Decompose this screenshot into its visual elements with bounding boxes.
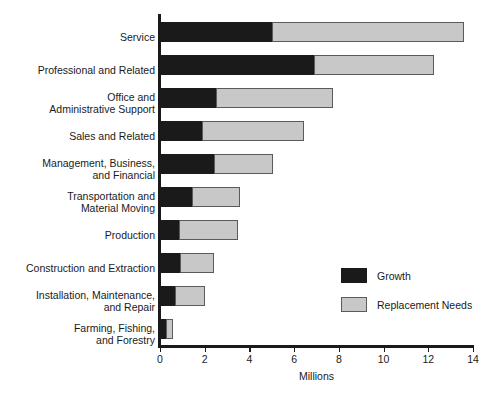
bar-segment-growth: [160, 220, 179, 240]
bar-segment-replacement-needs: [175, 286, 205, 306]
bar-segment-growth: [160, 187, 192, 207]
bar-row: Professional and Related: [0, 55, 497, 88]
bar-segment-growth: [160, 22, 272, 42]
stacked-bar-chart: ServiceProfessional and RelatedOffice an…: [0, 0, 497, 403]
category-label: Professional and Related: [0, 65, 155, 77]
category-label: Service: [0, 32, 155, 44]
category-label: Sales and Related: [0, 131, 155, 143]
category-label: Farming, Fishing, and Forestry: [0, 323, 155, 346]
category-label: Office and Administrative Support: [0, 92, 155, 115]
legend-swatch-growth-icon: [341, 268, 367, 283]
bar-segment-growth: [160, 253, 180, 273]
x-axis-tick: [384, 346, 385, 352]
bar-segment-growth: [160, 88, 216, 108]
x-axis-tick: [160, 346, 161, 352]
x-axis-tick-label: 6: [279, 353, 309, 365]
category-label: Transportation and Material Moving: [0, 191, 155, 214]
x-axis-tick: [339, 346, 340, 352]
legend-item-replacement-needs[interactable]: Replacement Needs: [341, 296, 472, 313]
bar-segment-replacement-needs: [214, 154, 273, 174]
bar-row: Management, Business, and Financial: [0, 154, 497, 187]
bar-segment-growth: [160, 286, 175, 306]
x-axis-tick: [205, 346, 206, 352]
bar-row: Service: [0, 22, 497, 55]
bar-segment-replacement-needs: [314, 55, 434, 75]
bar-segment-replacement-needs: [166, 319, 174, 339]
chart-legend: Growth Replacement Needs: [341, 267, 472, 325]
x-axis-tick-label: 2: [190, 353, 220, 365]
x-axis-tick-label: 10: [369, 353, 399, 365]
bar-segment-replacement-needs: [180, 253, 214, 273]
x-axis-tick: [473, 346, 474, 352]
bar-segment-growth: [160, 121, 202, 141]
bar-segment-replacement-needs: [272, 22, 464, 42]
legend-item-growth[interactable]: Growth: [341, 267, 472, 284]
x-axis-tick-label: 8: [324, 353, 354, 365]
category-label: Production: [0, 230, 155, 242]
category-label: Construction and Extraction: [0, 263, 155, 275]
bar-row: Sales and Related: [0, 121, 497, 154]
x-axis-tick: [249, 346, 250, 352]
bar-segment-growth: [160, 55, 314, 75]
bar-segment-growth: [160, 154, 214, 174]
bar-segment-replacement-needs: [216, 88, 333, 108]
x-axis-tick: [428, 346, 429, 352]
category-label: Management, Business, and Financial: [0, 158, 155, 181]
x-axis-tick-label: 12: [413, 353, 443, 365]
bar-row: Transportation and Material Moving: [0, 187, 497, 220]
bar-segment-replacement-needs: [192, 187, 240, 207]
x-axis-tick-label: 14: [458, 353, 488, 365]
legend-label-growth: Growth: [377, 270, 411, 282]
category-label: Installation, Maintenance, and Repair: [0, 290, 155, 313]
bar-segment-replacement-needs: [179, 220, 238, 240]
bar-row: Office and Administrative Support: [0, 88, 497, 121]
x-axis-tick-label: 0: [145, 353, 175, 365]
bar-row: Production: [0, 220, 497, 253]
bar-segment-replacement-needs: [202, 121, 304, 141]
x-axis-tick: [294, 346, 295, 352]
legend-label-replacement-needs: Replacement Needs: [377, 299, 472, 311]
legend-swatch-replacement-needs-icon: [341, 297, 367, 312]
x-axis-title: Millions: [160, 370, 473, 382]
x-axis-tick-label: 4: [234, 353, 264, 365]
